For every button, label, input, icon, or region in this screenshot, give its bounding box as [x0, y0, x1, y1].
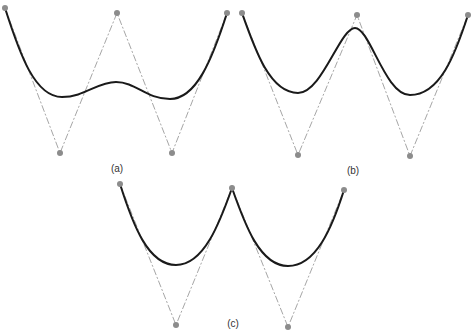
control-point	[224, 10, 230, 16]
control-point	[114, 10, 120, 16]
control-point	[341, 187, 347, 193]
panel-label-b: (b)	[347, 165, 359, 176]
spline-curve	[242, 13, 468, 95]
control-point	[117, 181, 123, 187]
control-polygon	[5, 8, 227, 153]
control-point	[169, 150, 175, 156]
panel-label-c: (c)	[227, 318, 239, 329]
panel-a	[2, 5, 230, 156]
panel-label-a: (a)	[111, 163, 123, 174]
control-point	[295, 152, 301, 158]
spline-curve	[5, 8, 227, 99]
bspline-figure	[0, 0, 472, 335]
control-point	[2, 5, 8, 11]
control-point	[239, 10, 245, 16]
control-point	[407, 153, 413, 159]
control-point	[57, 150, 63, 156]
control-point	[465, 12, 471, 18]
control-point	[285, 324, 291, 330]
control-point	[354, 12, 360, 18]
panel-c	[117, 181, 347, 330]
control-point	[173, 322, 179, 328]
spline-curve	[120, 184, 344, 266]
panel-b	[239, 10, 471, 159]
control-point	[229, 185, 235, 191]
